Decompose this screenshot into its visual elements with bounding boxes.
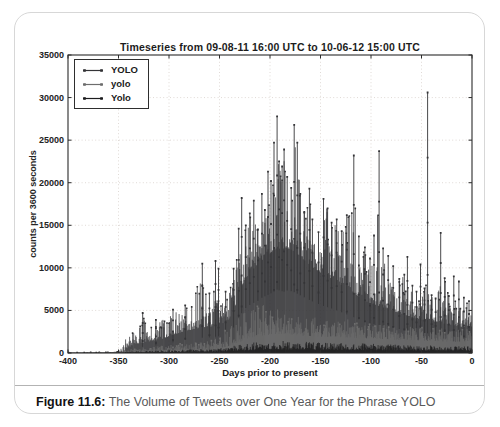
x-tick-label: -150 <box>311 356 329 366</box>
y-tick-label: 25000 <box>39 135 64 145</box>
x-tick-label: 0 <box>469 356 474 366</box>
y-tick-label: 20000 <box>39 178 64 188</box>
x-axis-label: Days prior to present <box>68 367 472 378</box>
x-tick-label: -200 <box>261 356 279 366</box>
figure-caption: Figure 11.6: The Volume of Tweets over O… <box>36 394 470 411</box>
caption-label: Figure 11.6: <box>36 395 105 409</box>
legend-line-sample <box>81 66 105 75</box>
x-tick-label: -300 <box>160 356 178 366</box>
chart-title: Timeseries from 09-08-11 16:00 UTC to 10… <box>68 41 472 53</box>
legend-label: YOLO <box>111 65 138 75</box>
y-tick-label: 0 <box>59 348 64 358</box>
y-tick-label: 30000 <box>39 93 64 103</box>
legend-item: yolo <box>81 78 138 90</box>
x-tick-label: -100 <box>362 356 380 366</box>
x-tick-label: -50 <box>415 356 428 366</box>
legend-label: yolo <box>111 79 131 89</box>
x-tick-label: -250 <box>210 356 228 366</box>
y-tick-label: 5000 <box>44 305 64 315</box>
y-axis-label: counts per 3600 seconds <box>28 150 38 258</box>
caption-text: The Volume of Tweets over One Year for t… <box>105 395 435 409</box>
legend-line-sample <box>81 80 105 89</box>
caption-divider <box>15 385 484 386</box>
chart-legend: YOLOyoloYolo <box>74 59 149 109</box>
page-background: { "figure": { "caption_label": "Figure 1… <box>0 0 500 427</box>
chart-area: -400-350-300-250-200-150-100-50005000100… <box>15 13 486 383</box>
y-tick-label: 15000 <box>39 220 64 230</box>
x-tick-label: -350 <box>109 356 127 366</box>
legend-item: Yolo <box>81 92 138 104</box>
y-tick-label: 35000 <box>39 50 64 60</box>
figure-card: -400-350-300-250-200-150-100-50005000100… <box>14 12 485 414</box>
legend-line-sample <box>81 94 105 103</box>
y-tick-label: 10000 <box>39 263 64 273</box>
legend-item: YOLO <box>81 64 138 76</box>
legend-label: Yolo <box>111 93 131 103</box>
